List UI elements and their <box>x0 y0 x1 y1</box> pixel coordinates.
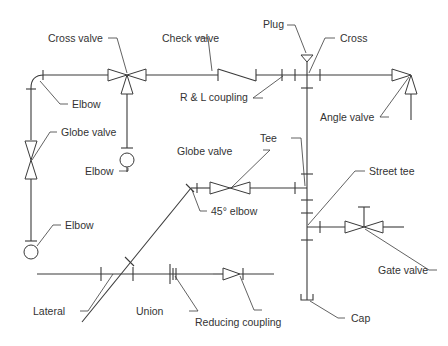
label-cap: Cap <box>351 312 370 324</box>
label-union: Union <box>136 305 164 317</box>
label-reducing-coupling: Reducing coupling <box>195 316 282 328</box>
cross-valve-symbol <box>108 69 146 172</box>
label-cross-valve: Cross valve <box>48 32 103 44</box>
label-45-elbow: 45° elbow <box>211 205 258 217</box>
cross-fitting-symbol <box>301 55 320 300</box>
piping-diagram: Cross valve Check valve Plug Cross Elbow… <box>0 0 448 346</box>
gate-valve-branch <box>307 207 404 233</box>
bottom-pipe-run <box>37 264 274 284</box>
label-rl-coupling: R & L coupling <box>180 91 248 103</box>
label-street-tee: Street tee <box>369 165 415 177</box>
label-plug: Plug <box>263 18 284 30</box>
globe-valve-mid-left <box>210 182 230 194</box>
plug-symbol <box>301 55 313 62</box>
label-tee: Tee <box>260 132 277 144</box>
label-elbow-left: Elbow <box>65 219 94 231</box>
globe-valve-left-lower <box>25 160 37 179</box>
angle-valve-symbol <box>392 69 417 120</box>
label-check-valve: Check valve <box>162 32 219 44</box>
reducing-coupling-symbol <box>223 268 240 280</box>
label-globe-valve-mid: Globe valve <box>177 145 233 157</box>
label-angle-valve: Angle valve <box>320 111 374 123</box>
labels: Cross valve Check valve Plug Cross Elbow… <box>33 18 428 328</box>
label-cross: Cross <box>340 32 367 44</box>
check-valve-symbol <box>218 69 256 81</box>
gate-valve-left <box>345 221 364 233</box>
label-elbow-mid: Elbow <box>85 165 114 177</box>
elbow-circle-mid <box>120 153 134 167</box>
label-elbow-top: Elbow <box>72 98 101 110</box>
gate-valve-right <box>364 221 383 233</box>
label-globe-valve-left: Globe valve <box>61 126 117 138</box>
lateral-diagonal <box>82 188 191 322</box>
left-vertical-run <box>24 100 38 259</box>
elbow-circle-left <box>24 245 38 259</box>
globe-valve-mid-right <box>230 182 250 194</box>
globe-valve-left-upper <box>25 141 37 160</box>
label-gate-valve: Gate valve <box>378 264 428 276</box>
label-lateral: Lateral <box>33 305 65 317</box>
